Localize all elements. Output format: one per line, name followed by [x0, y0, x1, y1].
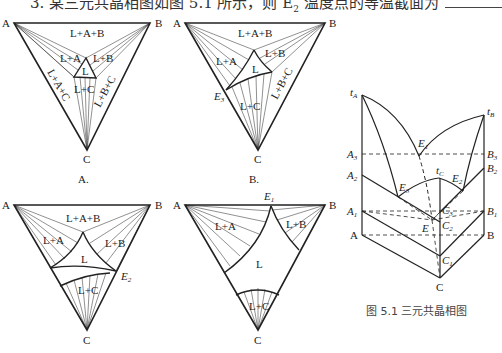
- svg-text:A1: A1: [346, 205, 357, 219]
- svg-text:tC: tC: [436, 164, 444, 178]
- option-a-region-lc: L+C: [74, 83, 94, 95]
- svg-text:tA: tA: [350, 86, 358, 100]
- svg-text:B2: B2: [487, 162, 498, 176]
- svg-text:B: B: [487, 229, 494, 241]
- option-b-region-lbc: L+B+C: [268, 65, 294, 100]
- option-b-vertex-c: C: [254, 153, 261, 165]
- option-a-region-lab: L+A+B: [70, 27, 104, 39]
- option-c-vertex-a: A: [2, 199, 10, 211]
- option-c-region-lab: L+A+B: [66, 212, 100, 224]
- svg-text:B1: B1: [487, 205, 497, 219]
- option-d-vertex-c: C: [254, 334, 261, 346]
- option-d-region-la: L+A: [215, 220, 236, 232]
- option-c-point-e2: E2: [120, 270, 132, 284]
- svg-text:A3: A3: [346, 148, 358, 162]
- option-a-label[interactable]: A.: [78, 173, 89, 185]
- svg-text:E: E: [421, 222, 429, 234]
- svg-text:C1: C1: [442, 254, 453, 268]
- ternary-eutectic-3d-figure: [362, 95, 484, 278]
- option-c-region-la: L+A: [43, 234, 64, 246]
- option-b-region-l: L: [252, 63, 259, 75]
- option-c-region-lb: L+B: [105, 237, 125, 249]
- option-d-point-e1: E1: [263, 190, 274, 204]
- option-b-vertex-a: A: [173, 17, 181, 29]
- figure-caption: 图 5.1 三元共晶相图: [366, 305, 468, 318]
- svg-text:C: C: [436, 281, 443, 293]
- option-b-region-lc: L+C: [240, 100, 260, 112]
- option-b-label[interactable]: B.: [249, 173, 259, 185]
- option-a-region-lb: L+B: [93, 52, 113, 64]
- option-a-vertex-a: A: [2, 17, 10, 29]
- option-c-vertex-c: C: [83, 334, 90, 346]
- svg-text:C3: C3: [442, 204, 453, 218]
- option-d-region-lc: L+C: [249, 300, 269, 312]
- svg-text:B3: B3: [487, 148, 498, 162]
- option-c-vertex-b: B: [155, 199, 162, 211]
- diagram-canvas: A B C L+A+B L+A L+B L L+C L+A+C L+B+C A.…: [0, 0, 502, 353]
- svg-text:A: A: [350, 229, 358, 241]
- option-c-region-l: L: [81, 253, 88, 265]
- option-a-region-lbc: L+B+C: [91, 73, 117, 108]
- option-c-region-lc: L+C: [78, 284, 98, 296]
- svg-text:A2: A2: [346, 169, 358, 183]
- option-d-region-l: L: [256, 258, 263, 270]
- option-b-region-la: L+A: [216, 55, 237, 67]
- option-a-region-la: L+A: [60, 52, 81, 64]
- svg-text:E2: E2: [451, 172, 463, 186]
- option-a-region-l: L: [82, 65, 89, 77]
- option-d-vertex-a: A: [173, 199, 181, 211]
- svg-text:E1: E1: [417, 137, 428, 151]
- option-d-region-lb: L+B: [286, 218, 306, 230]
- option-a-vertex-c: C: [83, 153, 90, 165]
- option-b-diagram[interactable]: [185, 23, 325, 150]
- option-b-point-e3: E3: [213, 90, 225, 104]
- option-a-vertex-b: B: [155, 17, 162, 29]
- option-b-vertex-b: B: [329, 17, 336, 29]
- option-d-vertex-b: B: [329, 199, 336, 211]
- option-b-region-lb: L+B: [265, 47, 285, 59]
- svg-text:E3: E3: [398, 181, 410, 195]
- svg-text:tB: tB: [487, 105, 495, 119]
- svg-text:C2: C2: [442, 219, 453, 233]
- option-b-region-lab: L+A+B: [238, 27, 272, 39]
